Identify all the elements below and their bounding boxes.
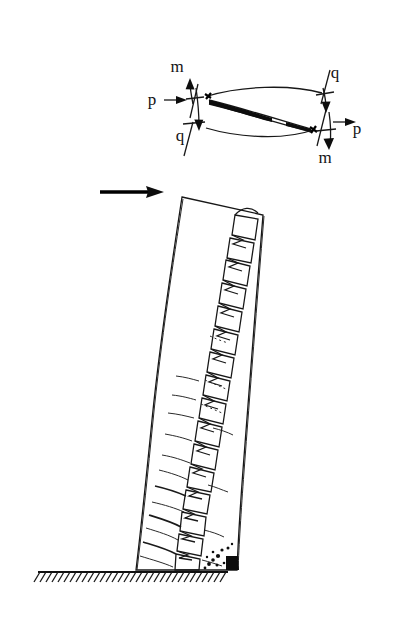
- spall-fragment: [212, 551, 215, 554]
- spall-fragment: [216, 554, 220, 558]
- spall-fragment: [204, 567, 207, 570]
- label-left-moment: m: [170, 57, 183, 76]
- figure-background: [0, 0, 395, 620]
- spall-fragment: [207, 562, 211, 566]
- spall-fragment: [227, 547, 230, 550]
- spall-fragment: [231, 543, 233, 545]
- spall-fragment: [216, 564, 219, 567]
- spall-fragment: [206, 556, 208, 558]
- spall-fragment: [211, 558, 215, 562]
- label-left-axial: p: [148, 90, 157, 109]
- crushed-core: [226, 556, 239, 570]
- figure-canvas: m p q q p m: [0, 0, 395, 620]
- label-right-shear: q: [331, 63, 340, 82]
- label-right-axial: p: [353, 119, 362, 138]
- engineering-figure: m p q q p m: [0, 0, 395, 620]
- label-left-shear: q: [176, 126, 185, 145]
- label-right-moment: m: [318, 148, 331, 167]
- spall-fragment: [220, 548, 223, 551]
- spall-fragment: [223, 562, 226, 565]
